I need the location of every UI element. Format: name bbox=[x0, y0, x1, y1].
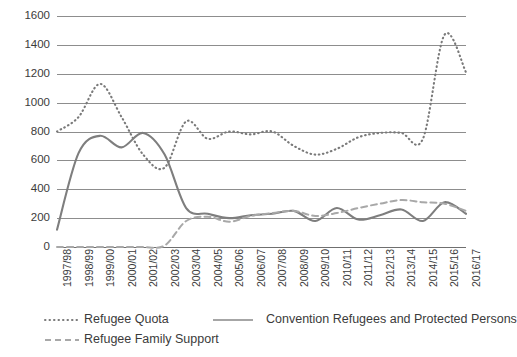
legend-label-refugee-quota: Refugee Quota bbox=[84, 313, 169, 326]
x-tick-2016-17: 2016/17 bbox=[471, 249, 482, 311]
series-line-refugee-family-support bbox=[57, 200, 466, 248]
x-tick-2004-05: 2004/05 bbox=[213, 249, 224, 311]
x-tick-2001-02: 2001/02 bbox=[148, 249, 159, 311]
y-tick-1400: 1400 bbox=[4, 39, 50, 51]
x-tick-2014-15: 2014/15 bbox=[428, 249, 439, 311]
y-tick-1000: 1000 bbox=[4, 97, 50, 109]
legend-item-refugee-family-support: Refugee Family Support bbox=[44, 333, 219, 346]
y-tick-1600: 1600 bbox=[4, 10, 50, 22]
legend-item-convention-refugees: Convention Refugees and Protected Person… bbox=[212, 313, 517, 326]
y-tick-200: 200 bbox=[4, 212, 50, 224]
series-line-refugee-quota bbox=[57, 33, 466, 169]
chart-legend: Refugee Quota Convention Refugees and Pr… bbox=[44, 313, 469, 353]
x-tick-2011-12: 2011/12 bbox=[363, 249, 374, 311]
y-tick-0: 0 bbox=[4, 241, 50, 253]
y-tick-600: 600 bbox=[4, 154, 50, 166]
x-tick-2008-09: 2008/09 bbox=[299, 249, 310, 311]
dashed-line-icon bbox=[44, 335, 80, 345]
solid-line-icon bbox=[212, 315, 254, 325]
dotted-line-icon bbox=[44, 315, 80, 325]
x-tick-2006-07: 2006/07 bbox=[256, 249, 267, 311]
legend-label-convention-refugees: Convention Refugees and Protected Person… bbox=[266, 313, 517, 326]
x-tick-2009-10: 2009/10 bbox=[320, 249, 331, 311]
y-tick-800: 800 bbox=[4, 126, 50, 138]
x-tick-2005-06: 2005/06 bbox=[234, 249, 245, 311]
series-lines bbox=[57, 16, 466, 247]
x-tick-2010-11: 2010/11 bbox=[342, 249, 353, 311]
x-tick-1997-98: 1997/98 bbox=[62, 249, 73, 311]
x-tick-2013-14: 2013/14 bbox=[406, 249, 417, 311]
x-tick-1998-99: 1998/99 bbox=[84, 249, 95, 311]
x-tick-2000-01: 2000/01 bbox=[127, 249, 138, 311]
y-axis-labels: 1600 1400 1200 1000 800 600 400 200 0 bbox=[0, 16, 50, 247]
plot-area bbox=[57, 16, 466, 247]
x-tick-2003-04: 2003/04 bbox=[191, 249, 202, 311]
x-tick-2002-03: 2002/03 bbox=[170, 249, 181, 311]
y-tick-400: 400 bbox=[4, 183, 50, 195]
x-tick-2015-16: 2015/16 bbox=[449, 249, 460, 311]
x-axis-labels: 1997/981998/991999/002000/012001/022002/… bbox=[57, 249, 466, 311]
legend-label-refugee-family-support: Refugee Family Support bbox=[84, 333, 219, 346]
x-tick-2012-13: 2012/13 bbox=[385, 249, 396, 311]
x-tick-1999-00: 1999/00 bbox=[105, 249, 116, 311]
legend-item-refugee-quota: Refugee Quota bbox=[44, 313, 169, 326]
x-tick-2007-08: 2007/08 bbox=[277, 249, 288, 311]
y-tick-1200: 1200 bbox=[4, 68, 50, 80]
series-line-convention-refugees-and-protected-persons bbox=[57, 133, 466, 230]
